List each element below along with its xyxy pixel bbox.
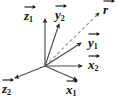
vector-hat-arrow-icon bbox=[66, 77, 78, 83]
vector-label-z2: z2 bbox=[2, 82, 11, 97]
vector-label-x1: x1 bbox=[66, 83, 77, 98]
vector-label-y2-symbol: y bbox=[55, 7, 61, 22]
vector-label-x2-symbol: x bbox=[88, 57, 95, 72]
vector-hat-arrow-icon bbox=[2, 76, 14, 82]
vector-line-z2 bbox=[15, 66, 45, 78]
vector-label-x1-symbol: x bbox=[66, 82, 73, 97]
vector-label-y2-subscript: 2 bbox=[61, 14, 65, 23]
vector-label-z2-subscript: 2 bbox=[7, 88, 11, 97]
vector-label-r-symbol: r bbox=[103, 2, 108, 17]
vector-label-x2-subscript: 2 bbox=[95, 64, 99, 73]
vector-label-z2-symbol: z bbox=[2, 81, 7, 96]
vector-label-y1-symbol: y bbox=[88, 35, 94, 50]
vector-label-y2: y2 bbox=[55, 8, 65, 23]
vector-hat-arrow-icon bbox=[24, 3, 36, 9]
vector-line-y1 bbox=[45, 43, 81, 66]
vector-hat-arrow-icon bbox=[103, 0, 115, 3]
vector-label-r: r bbox=[103, 3, 108, 18]
vector-hat-arrow-icon bbox=[88, 52, 100, 58]
vector-label-y1-subscript: 1 bbox=[94, 42, 98, 51]
vector-hat-arrow-icon bbox=[55, 2, 67, 8]
vector-label-y1: y1 bbox=[88, 36, 98, 51]
vector-label-z1-subscript: 1 bbox=[29, 15, 33, 24]
vector-label-z1-symbol: z bbox=[24, 8, 29, 23]
vector-hat-arrow-icon bbox=[88, 30, 100, 36]
vector-diagram-figure: z1 y2 r y1 bbox=[0, 0, 119, 104]
vector-label-x2: x2 bbox=[88, 58, 99, 73]
vector-label-x1-subscript: 1 bbox=[73, 89, 77, 98]
vector-line-y2 bbox=[45, 24, 59, 66]
vector-label-z1: z1 bbox=[24, 9, 33, 24]
